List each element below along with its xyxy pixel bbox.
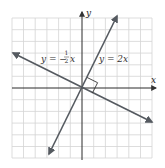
x-axis-label: x — [151, 75, 156, 85]
coordinate-plane: x y y = − 1 2 x y = 2x — [0, 0, 165, 168]
label-fraction-denominator: 2 — [65, 57, 69, 64]
label-y-neg-half-x-suffix: x — [70, 54, 75, 64]
line-y-2x — [49, 16, 117, 154]
label-y-2x: y = 2x — [98, 54, 128, 64]
label-y-neg-half-x: y = − — [40, 54, 67, 64]
y-axis-label: y — [85, 8, 92, 18]
label-fraction-numerator: 1 — [65, 49, 69, 56]
